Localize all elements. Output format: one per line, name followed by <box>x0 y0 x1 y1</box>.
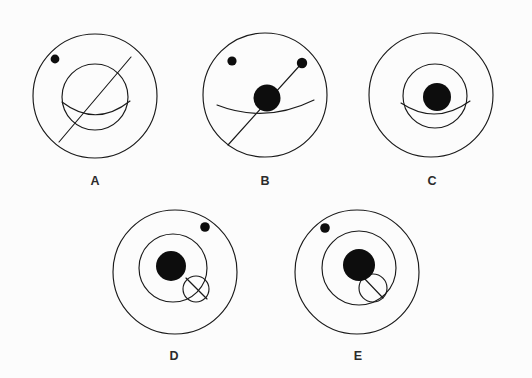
secondary-dot <box>297 58 307 68</box>
panel-label-c: C <box>427 174 436 188</box>
nucleus-blob <box>156 251 186 281</box>
nucleus-blob <box>343 249 375 281</box>
satellite-dot <box>200 222 210 232</box>
multi-panel-circle-diagram: A B C D <box>0 0 532 378</box>
diagonal-line <box>363 277 383 298</box>
satellite-dot <box>227 56 236 65</box>
panel-b: B <box>203 33 327 188</box>
panel-e: E <box>295 210 419 363</box>
figure-panel: A B C D <box>0 0 532 378</box>
panel-label-d: D <box>169 349 178 363</box>
diagonal-line <box>59 57 131 142</box>
panel-d: D <box>113 210 237 363</box>
satellite-dot <box>320 223 330 233</box>
nucleus-blob <box>254 85 281 112</box>
inner-circle <box>62 64 128 130</box>
panel-label-b: B <box>260 174 269 188</box>
nucleus-blob <box>423 83 451 111</box>
panel-a: A <box>33 34 157 188</box>
small-circle <box>183 276 209 302</box>
curved-arc <box>62 101 130 115</box>
panel-c: C <box>369 33 493 188</box>
satellite-dot <box>51 55 60 64</box>
panel-label-a: A <box>90 174 99 188</box>
outer-circle <box>33 34 157 158</box>
panel-label-e: E <box>354 349 362 363</box>
